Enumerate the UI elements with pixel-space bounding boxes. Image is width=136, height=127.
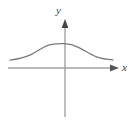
x-axis-arrowhead-icon — [110, 64, 119, 71]
bell-curve-path — [10, 44, 113, 60]
graph-canvas — [0, 0, 136, 127]
graph-figure: y x — [0, 0, 136, 127]
x-axis-label: x — [122, 62, 127, 73]
y-axis-arrowhead-icon — [62, 19, 69, 28]
y-axis-label: y — [56, 5, 61, 16]
